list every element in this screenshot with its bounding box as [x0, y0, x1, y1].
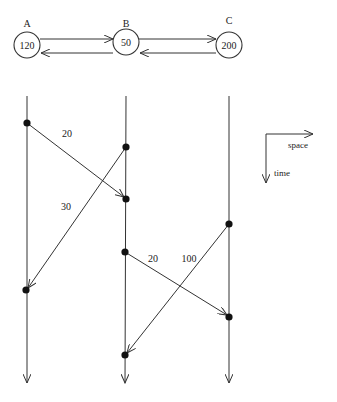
node-a-value: 120 [20, 40, 35, 51]
event-dot [122, 143, 129, 150]
message-a-to-b-label: 20 [62, 128, 72, 139]
message-c-to-b [127, 224, 229, 353]
axes-legend: space time [266, 134, 313, 183]
event-dot [121, 248, 128, 255]
node-a-name: A [23, 18, 31, 29]
node-b: B 50 [113, 18, 139, 55]
event-dot [23, 119, 30, 126]
node-c-name: C [226, 15, 233, 26]
node-b-value: 50 [121, 37, 131, 48]
message-b-to-c-label: 20 [148, 253, 158, 264]
message-b-to-a-label: 30 [61, 201, 71, 212]
node-b-name: B [123, 18, 130, 29]
space-time-diagram: A 120 B 50 C 200 20 30 20 100 [0, 0, 337, 402]
event-dot [121, 351, 128, 358]
node-c-value: 200 [222, 40, 237, 51]
node-c: C 200 [216, 15, 242, 58]
time-label: time [274, 168, 290, 178]
space-label: space [288, 140, 308, 150]
event-dot [225, 313, 232, 320]
timeline-b [125, 96, 126, 383]
message-a-to-b [27, 123, 124, 197]
message-b-to-a [28, 147, 126, 288]
node-a: A 120 [14, 18, 40, 58]
event-dot [225, 220, 232, 227]
message-b-to-c [125, 252, 227, 315]
event-dots [22, 119, 232, 358]
event-dot [122, 195, 129, 202]
message-c-to-b-label: 100 [182, 253, 197, 264]
event-dot [22, 286, 29, 293]
